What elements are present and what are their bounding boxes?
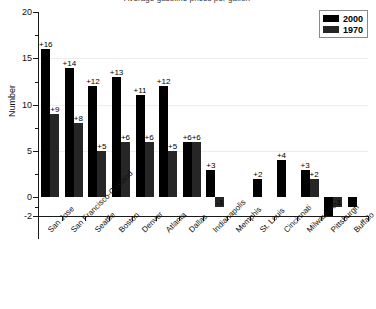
bar-value-label: +11: [129, 86, 151, 95]
bar-2000: [277, 160, 286, 197]
y-axis-tick-label: -2: [10, 211, 32, 221]
legend-label-2000: 2000: [343, 14, 363, 24]
bar-value-label: +8: [67, 114, 89, 123]
legend-swatch-2000-icon: [323, 15, 339, 22]
legend-item-1970: 1970: [323, 24, 363, 35]
y-axis-tick-label: 5: [10, 146, 32, 156]
bar-series-group: +16+9+14+8+12+5+13+6+11+6+12+5+6+6+3-1+2…: [38, 12, 368, 216]
y-axis-tick: [33, 216, 39, 217]
bar-value-label: +4: [271, 151, 293, 160]
bar-value-label: +2: [303, 170, 325, 179]
legend-swatch-1970-icon: [323, 26, 339, 33]
bar-value-label: +5: [162, 142, 184, 151]
y-axis-tick-label: 15: [10, 53, 32, 63]
bar-1970: [168, 151, 177, 197]
bar-value-label: +6: [138, 133, 160, 142]
bar-value-label: +3: [200, 161, 222, 170]
bar-1970: [74, 123, 83, 197]
bar-value-label: +12: [153, 77, 175, 86]
bar-value-label: +9: [44, 105, 66, 114]
bar-value-label: +14: [58, 59, 80, 68]
bar-value-label: +16: [35, 40, 57, 49]
bar-value-label: +6: [185, 133, 207, 142]
bar-value-label: +6: [115, 133, 137, 142]
bar-value-label: +2: [247, 170, 269, 179]
chart-legend: 2000 1970: [319, 10, 368, 38]
y-axis-tick-label: 20: [10, 7, 32, 17]
bar-value-label: -1: [209, 198, 231, 207]
bar-value-label: +5: [91, 142, 113, 151]
bar-2000: [253, 179, 262, 198]
bar-value-label: +12: [82, 77, 104, 86]
bar-1970: [50, 114, 59, 197]
legend-label-1970: 1970: [343, 25, 363, 35]
y-axis-tick-label: 0: [10, 192, 32, 202]
bar-1970: [310, 179, 319, 198]
legend-item-2000: 2000: [323, 13, 363, 24]
bar-2000: [41, 49, 50, 197]
bar-1970: [192, 142, 201, 198]
bar-1970: [145, 142, 154, 198]
chart-title: Average gasoline prices per gallon: [72, 0, 302, 5]
bar-2000: [206, 170, 215, 198]
bar-value-label: +13: [106, 68, 128, 77]
bar-2000: [65, 68, 74, 198]
y-axis-title: Number: [7, 73, 17, 129]
bar-2000: [183, 142, 192, 198]
bar-2000: [136, 95, 145, 197]
y-axis-tick-labels: 20151050-2: [0, 0, 32, 309]
bar-value-label: +3: [294, 161, 316, 170]
